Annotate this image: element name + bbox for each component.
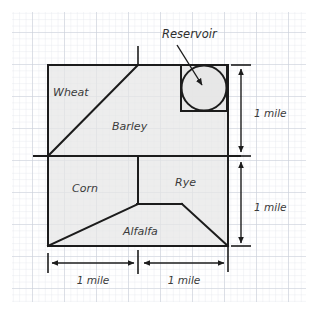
dimension-label-right-bottom: 1 mile — [254, 201, 287, 213]
dimension-label-right-top: 1 mile — [254, 107, 287, 119]
dimension-label-bottom-left: 1 mile — [77, 274, 110, 286]
dimension-label-bottom-right: 1 mile — [168, 274, 201, 286]
field-label-alfalfa: Alfalfa — [122, 225, 158, 238]
reservoir-label: Reservoir — [162, 27, 218, 41]
farm-field-diagram: Reservoir Wheat Barley Corn Rye Alfalfa … — [0, 0, 319, 334]
field-label-corn: Corn — [72, 182, 98, 195]
field-label-wheat: Wheat — [53, 86, 89, 99]
reservoir-circle — [182, 66, 227, 111]
diagram-page: Reservoir Wheat Barley Corn Rye Alfalfa … — [0, 0, 319, 334]
field-label-barley: Barley — [112, 120, 148, 133]
field-label-rye: Rye — [175, 176, 196, 189]
